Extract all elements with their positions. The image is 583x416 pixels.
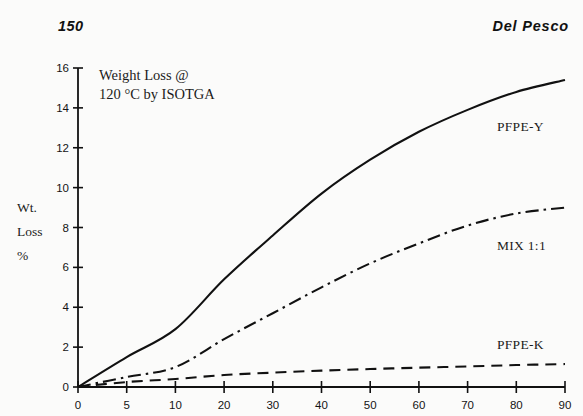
series-line-mix-1-1	[78, 208, 565, 387]
y-tick-label: 4	[63, 301, 69, 313]
y-axis-title: Wt. Loss %	[17, 196, 43, 268]
y-tick-label: 0	[63, 381, 69, 393]
x-tick-label: 30	[266, 399, 279, 411]
y-tick-label: 6	[63, 261, 69, 273]
series-label-pfpe-y: PFPE-Y	[497, 119, 544, 135]
series-line-pfpe-y	[78, 80, 565, 387]
series-label-mix: MIX 1:1	[497, 238, 546, 254]
x-tick-label: 5	[123, 399, 129, 411]
x-tick-label: 0	[75, 399, 81, 411]
y-axis-title-line-2: Loss	[17, 220, 43, 244]
y-tick-label: 10	[56, 182, 69, 194]
x-tick-label: 20	[218, 399, 231, 411]
y-tick-label: 12	[56, 142, 69, 154]
x-tick-label: 40	[315, 399, 328, 411]
page-canvas: 150 Del Pesco Weight Loss @ 120 °C by IS…	[0, 0, 583, 416]
x-tick-label: 80	[510, 399, 523, 411]
annotation-line-1: Weight Loss @	[99, 66, 215, 85]
y-tick-label: 16	[56, 62, 69, 74]
annotation-line-2: 120 °C by ISOTGA	[99, 85, 215, 104]
x-tick-label: 90	[559, 399, 572, 411]
x-tick-label: 70	[461, 399, 474, 411]
x-tick-label: 50	[364, 399, 377, 411]
weight-loss-line-chart: Weight Loss @ 120 °C by ISOTGA Wt. Loss …	[0, 0, 583, 416]
x-tick-label: 60	[412, 399, 425, 411]
series-label-pfpe-k: PFPE-K	[497, 337, 544, 353]
chart-plot-area	[0, 0, 583, 416]
y-tick-label: 8	[63, 222, 69, 234]
y-axis-title-line-1: Wt.	[17, 196, 43, 220]
chart-series	[78, 80, 565, 387]
y-tick-label: 14	[56, 102, 69, 114]
chart-axes	[73, 68, 565, 393]
x-tick-label: 10	[169, 399, 182, 411]
y-axis-title-line-3: %	[17, 244, 43, 268]
chart-annotation: Weight Loss @ 120 °C by ISOTGA	[99, 66, 215, 104]
y-tick-label: 2	[63, 341, 69, 353]
